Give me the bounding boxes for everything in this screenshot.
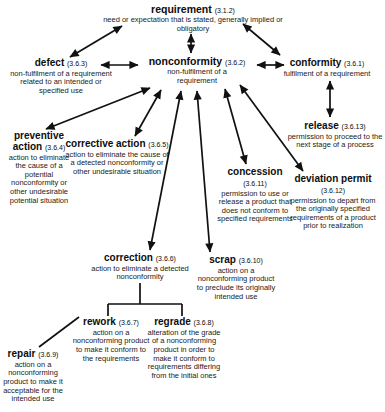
node-scrap: scrap (3.6.10) action on a nonconforming…: [195, 255, 277, 301]
definition-correction: action to eliminate a detected nonconfor…: [84, 265, 196, 282]
term-deviation-permit: deviation permit (3.6.12): [285, 174, 381, 196]
definition-release: permission to proceed to the next stage …: [286, 133, 384, 150]
node-requirement: requirement (3.1.2) need or expectation …: [103, 4, 283, 34]
term-release: release (3.6.13): [286, 121, 384, 132]
definition-deviation-permit: permission to depart from the originally…: [285, 197, 381, 232]
definition-concession: permission to use or release a product t…: [217, 190, 293, 225]
node-defect: defect (3.6.3) non-fulfilment of a requi…: [5, 58, 117, 96]
term-defect: defect (3.6.3): [5, 58, 117, 69]
node-corrective-action: corrective action (3.6.5) action to elim…: [64, 139, 170, 177]
arrow-nonconformity-scrap: [197, 91, 210, 252]
definition-nonconformity: non-fulfilment of a requirement: [152, 68, 242, 85]
term-nonconformity: nonconformity (3.6.2): [130, 56, 264, 67]
node-conformity: conformity (3.6.1) fulfilment of a requi…: [272, 58, 382, 78]
term-concession: concession (3.6.11): [217, 167, 293, 189]
term-regrade: regrade (3.6.8): [144, 317, 224, 328]
term-repair: repair (3.6.9): [0, 349, 66, 360]
definition-regrade: alteration of the grade of a nonconformi…: [144, 329, 224, 381]
node-rework: rework (3.6.7) action on a nonconforming…: [70, 317, 152, 363]
node-nonconformity: nonconformity (3.6.2) non-fulfilment of …: [130, 56, 264, 86]
term-corrective-action: corrective action (3.6.5): [64, 139, 170, 150]
term-conformity: conformity (3.6.1): [272, 58, 382, 69]
definition-corrective-action: action to eliminate the cause of a detec…: [64, 151, 170, 177]
node-repair: repair (3.6.9) action on a nonconforming…: [0, 349, 66, 404]
node-correction: correction (3.6.6) action to eliminate a…: [84, 253, 196, 282]
definition-requirement: need or expectation that is stated, gene…: [103, 16, 283, 33]
node-concession: concession (3.6.11) permission to use or…: [217, 167, 293, 224]
arrow-nonconformity-corrective-action: [135, 90, 161, 136]
connector-correction-rework-regrade: [108, 283, 182, 316]
concept-diagram: requirement (3.1.2) need or expectation …: [0, 0, 385, 412]
definition-conformity: fulfilment of a requirement: [272, 70, 382, 79]
term-rework: rework (3.6.7): [70, 317, 152, 328]
definition-rework: action on a nonconforming product to mak…: [70, 329, 152, 364]
term-correction: correction (3.6.6): [84, 253, 196, 264]
term-requirement: requirement (3.1.2): [103, 4, 283, 15]
node-deviation-permit: deviation permit (3.6.12) permission to …: [285, 174, 381, 231]
definition-repair: action on a nonconforming product to mak…: [0, 361, 66, 404]
definition-scrap: action on a nonconforming product to pre…: [195, 267, 277, 302]
term-scrap: scrap (3.6.10): [195, 255, 277, 266]
definition-defect: non-fulfilment of a requirement related …: [9, 70, 113, 96]
arrow-nonconformity-concession: [225, 89, 246, 164]
node-regrade: regrade (3.6.8) alteration of the grade …: [144, 317, 224, 381]
node-release: release (3.6.13) permission to proceed t…: [286, 121, 384, 150]
